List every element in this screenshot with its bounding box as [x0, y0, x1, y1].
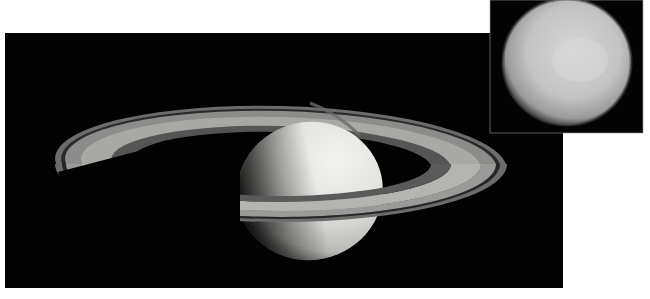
scene	[0, 0, 650, 299]
titan-bright-region	[552, 38, 608, 82]
